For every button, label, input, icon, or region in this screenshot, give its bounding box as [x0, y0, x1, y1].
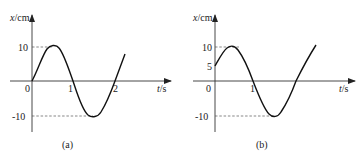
- y-axis-label: x/cm: [9, 12, 30, 23]
- x-tick-1: 1: [68, 83, 73, 94]
- x-axis-label: t/s: [157, 83, 167, 94]
- y-tick-5: 5: [207, 61, 212, 72]
- y-axis-label: x/cm: [192, 12, 213, 23]
- origin-label: 0: [25, 83, 30, 94]
- caption: (a): [62, 139, 73, 151]
- origin-label: 0: [206, 83, 211, 94]
- y-tick-neg10: -10: [12, 111, 25, 122]
- y-tick-neg10: -10: [195, 111, 208, 122]
- caption: (b): [256, 139, 268, 151]
- panel-a: x/cm t/s 0 10 -10 1 2 (a): [9, 12, 171, 151]
- y-tick-10: 10: [202, 42, 212, 53]
- x-axis-label: t/s: [339, 83, 349, 94]
- figure: x/cm t/s 0 10 -10 1 2 (a) x/cm t/s 0 10 …: [0, 0, 357, 162]
- panel-b: x/cm t/s 0 10 5 -10 1 (b): [192, 12, 355, 151]
- y-tick-10: 10: [18, 42, 28, 53]
